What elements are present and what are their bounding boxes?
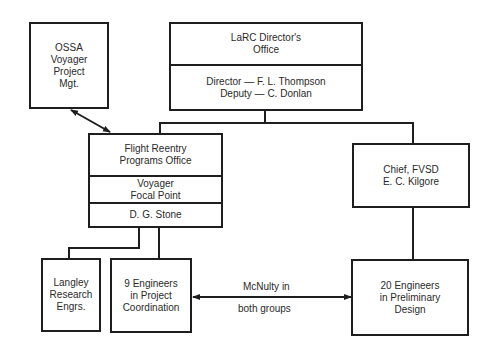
langley-label: Langley Research Engrs. bbox=[50, 277, 93, 313]
twenty-engineers-box: 20 Engineers in Preliminary Design bbox=[351, 259, 469, 336]
flight-title: Flight Reentry Programs Office bbox=[119, 143, 191, 167]
flight-reentry-box: Flight Reentry Programs Office Voyager F… bbox=[88, 133, 223, 228]
nine-engineers-box: 9 Engineers in Project Coordination bbox=[110, 258, 192, 333]
mcnulty-label-top: McNulty in bbox=[243, 281, 290, 293]
ossa-label: OSSA Voyager Project Mgt. bbox=[51, 42, 88, 90]
chief-fvsd-box: Chief, FVSD E. C. Kilgore bbox=[352, 143, 470, 208]
twenty-engineers-label: 20 Engineers in Preliminary Design bbox=[380, 280, 441, 316]
larc-title: LaRC Director's Office bbox=[231, 32, 301, 56]
mcnulty-label-bottom: both groups bbox=[238, 303, 291, 315]
nine-engineers-label: 9 Engineers in Project Coordination bbox=[123, 278, 180, 314]
langley-research-box: Langley Research Engrs. bbox=[41, 258, 101, 332]
chief-label: Chief, FVSD E. C. Kilgore bbox=[383, 164, 439, 188]
flight-head: D. G. Stone bbox=[129, 209, 181, 221]
flight-role: Voyager Focal Point bbox=[130, 178, 180, 202]
larc-director-box: LaRC Director's Office Director — F. L. … bbox=[169, 22, 363, 111]
ossa-voyager-box: OSSA Voyager Project Mgt. bbox=[29, 22, 109, 109]
larc-staff: Director — F. L. Thompson Deputy — C. Do… bbox=[206, 76, 325, 100]
